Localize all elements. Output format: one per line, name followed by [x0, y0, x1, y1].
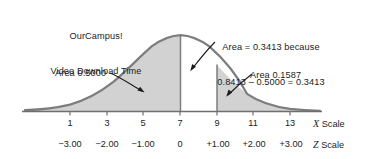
- figure-title: OurCampus! Video Download Time: [38, 8, 154, 101]
- z-scale-tick-row: −3.00 −2.00 −1.00 0 +1.00 +2.00 +3.00 Z …: [0, 139, 367, 153]
- z-tick-label: +2.00: [242, 139, 265, 149]
- z-tick-label: 0: [177, 139, 182, 149]
- z-scale-word: Scale: [321, 140, 344, 150]
- x-scale-word: Scale: [322, 119, 345, 129]
- x-tick-label: 9: [214, 118, 219, 128]
- x-scale-tick-row: 1 3 5 7 9 11 13 X Scale: [0, 118, 367, 132]
- area-label-left: Area 0.5000: [55, 68, 106, 80]
- x-tick-label: 3: [104, 118, 109, 128]
- z-scale-symbol: Z: [313, 139, 319, 150]
- z-scale-axis-label: Z Scale: [313, 139, 344, 150]
- area-note-line-1: Area = 0.3413 because: [196, 42, 346, 54]
- x-scale-symbol: X: [313, 118, 319, 129]
- x-tick-label: 11: [248, 118, 258, 128]
- z-tick-label: −2.00: [95, 139, 118, 149]
- area-label-right: Area 0.1587: [250, 70, 301, 82]
- area-computation-note: Area = 0.3413 because 0.8413 – 0.5000 = …: [196, 19, 346, 112]
- normal-distribution-figure: OurCampus! Video Download Time Area = 0.…: [0, 0, 367, 159]
- z-tick-label: −1.00: [131, 139, 154, 149]
- x-scale-axis-label: X Scale: [313, 118, 345, 129]
- x-tick-label: 5: [140, 118, 145, 128]
- z-tick-label: +1.00: [206, 139, 229, 149]
- figure-title-line-1: OurCampus!: [38, 31, 154, 43]
- x-tick-label: 13: [285, 118, 295, 128]
- z-tick-label: −3.00: [58, 139, 81, 149]
- x-tick-label: 1: [67, 118, 72, 128]
- z-tick-label: +3.00: [279, 139, 302, 149]
- x-tick-label: 7: [177, 118, 182, 128]
